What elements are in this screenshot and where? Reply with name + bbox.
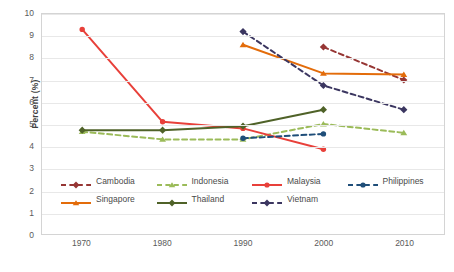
legend-item-thailand[interactable]: Thailand	[156, 190, 252, 208]
x-axis-tick-label: 1980	[132, 238, 192, 248]
y-axis-tick-labels: 012345678910	[8, 13, 34, 235]
legend-label: Indonesia	[192, 176, 229, 186]
gridline	[42, 169, 444, 170]
gridline	[42, 103, 444, 104]
legend-item-philippines[interactable]: Philippines	[347, 172, 443, 190]
gridline	[42, 58, 444, 59]
y-axis-tick-label: 5	[8, 119, 34, 129]
legend-swatch-icon	[251, 176, 283, 186]
gridline	[42, 14, 444, 15]
y-axis-tick-label: 0	[8, 230, 34, 240]
y-axis-tick-label: 7	[8, 75, 34, 85]
legend-item-cambodia[interactable]: Cambodia	[60, 172, 156, 190]
x-axis-tick-labels: 19701980199020002010	[41, 238, 445, 256]
legend-label: Thailand	[192, 194, 225, 204]
legend-item-indonesia[interactable]: Indonesia	[156, 172, 252, 190]
y-axis-tick-label: 9	[8, 30, 34, 40]
y-axis-tick-label: 8	[8, 52, 34, 62]
y-axis-tick-label: 1	[8, 208, 34, 218]
series-cambodia	[320, 43, 408, 83]
y-axis-tick-label: 3	[8, 163, 34, 173]
legend-label: Vietnam	[287, 194, 318, 204]
legend-item-malaysia[interactable]: Malaysia	[251, 172, 347, 190]
legend-swatch-icon	[156, 194, 188, 204]
y-axis-tick-label: 2	[8, 186, 34, 196]
legend-swatch-icon	[156, 176, 188, 186]
x-axis-tick-label: 1970	[51, 238, 111, 248]
x-axis-tick-label: 2010	[375, 238, 435, 248]
chart-legend: CambodiaIndonesiaMalaysiaPhilippinesSing…	[60, 172, 442, 212]
y-axis-tick-label: 6	[8, 97, 34, 107]
gridline	[42, 81, 444, 82]
legend-swatch-icon	[347, 176, 379, 186]
legend-swatch-icon	[60, 176, 92, 186]
gridline	[42, 214, 444, 215]
line-chart: Percent (%) 012345678910 197019801990200…	[0, 0, 454, 272]
y-axis-tick-label: 10	[8, 8, 34, 18]
legend-swatch-icon	[251, 194, 283, 204]
legend-label: Cambodia	[96, 176, 135, 186]
series-malaysia	[79, 27, 326, 152]
legend-item-vietnam[interactable]: Vietnam	[251, 190, 347, 208]
legend-item-singapore[interactable]: Singapore	[60, 190, 156, 208]
gridline	[42, 36, 444, 37]
y-axis-tick-label: 4	[8, 141, 34, 151]
legend-label: Philippines	[383, 176, 424, 186]
legend-swatch-icon	[60, 194, 92, 204]
gridline	[42, 125, 444, 126]
legend-label: Malaysia	[287, 176, 321, 186]
legend-label: Singapore	[96, 194, 135, 204]
x-axis-tick-label: 2000	[294, 238, 354, 248]
x-axis-tick-label: 1990	[213, 238, 273, 248]
gridline	[42, 147, 444, 148]
